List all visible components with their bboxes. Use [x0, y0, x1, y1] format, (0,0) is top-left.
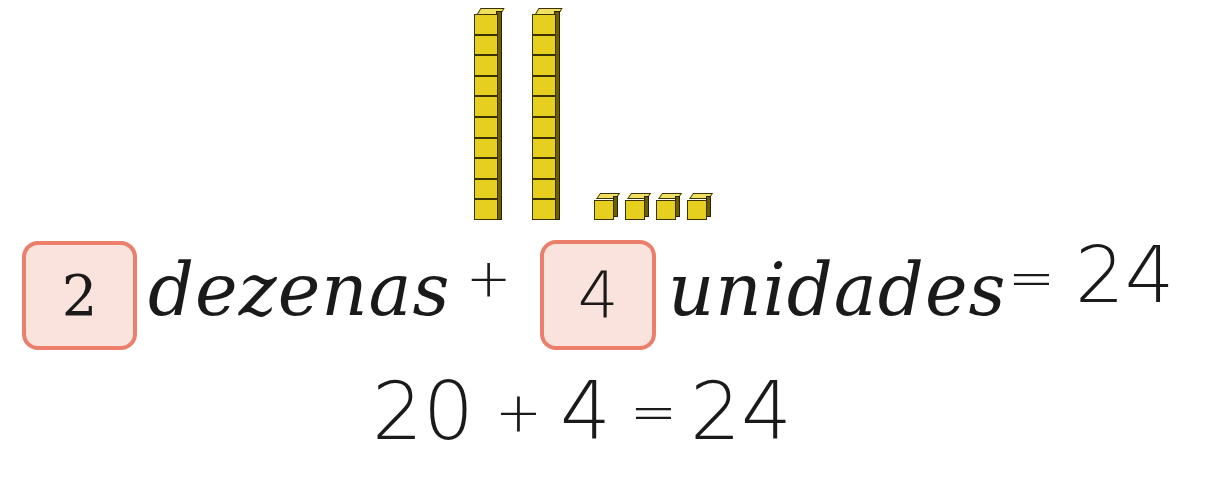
unit-cube-1 [594, 193, 618, 220]
unit-cube-4 [687, 193, 711, 220]
units-count-box: 4 [540, 240, 656, 350]
term-units: 4 [560, 372, 611, 452]
result-2: 24 [690, 372, 792, 452]
tens-word: dezenas [148, 254, 451, 326]
tens-rod-1 [474, 8, 498, 220]
equals-sign-2: = [630, 384, 677, 440]
plus-sign-1: + [466, 252, 511, 306]
units-word: unidades [668, 254, 1006, 326]
base-ten-blocks [0, 0, 1210, 230]
equals-sign-1: = [1008, 250, 1055, 306]
unit-cube-2 [625, 193, 649, 220]
unit-cube-3 [656, 193, 680, 220]
tens-count-value: 2 [62, 263, 98, 328]
plus-sign-2: + [495, 384, 542, 440]
result-1: 24 [1075, 236, 1174, 314]
tens-count-box: 2 [22, 241, 137, 350]
term-tens: 20 [372, 372, 474, 452]
tens-rod-2 [532, 8, 556, 220]
units-count-value: 4 [578, 258, 619, 332]
